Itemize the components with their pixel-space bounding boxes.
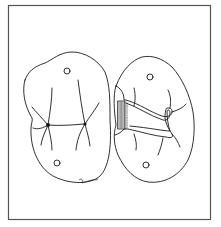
groove-line bbox=[85, 124, 90, 146]
illustration-canvas: Bradley bbox=[0, 0, 221, 227]
contact-circle-bottom bbox=[143, 162, 149, 168]
right-tooth-outline bbox=[114, 56, 194, 182]
ridge-line bbox=[172, 134, 180, 147]
groove-line bbox=[76, 124, 85, 150]
groove-line bbox=[32, 107, 48, 125]
ridge-line bbox=[168, 90, 171, 108]
groove-line bbox=[33, 125, 48, 129]
figure-frame bbox=[9, 6, 211, 220]
dental-illustration: dental line illustration bbox=[0, 0, 221, 227]
right-tooth bbox=[114, 56, 194, 182]
groove-line bbox=[78, 80, 85, 124]
artist-signature: Bradley bbox=[78, 178, 103, 186]
groove-line bbox=[48, 88, 52, 125]
hatching bbox=[119, 102, 124, 128]
contact-circle-top bbox=[147, 74, 153, 80]
left-tooth-outline bbox=[24, 52, 111, 183]
ridge-line bbox=[172, 104, 186, 112]
contact-circle-bottom bbox=[54, 160, 60, 166]
cavity-inner-outline bbox=[126, 103, 170, 131]
left-tooth bbox=[24, 52, 111, 183]
groove-line bbox=[85, 103, 99, 124]
contact-circle-top bbox=[64, 68, 70, 74]
central-groove bbox=[48, 124, 84, 125]
ridge-line bbox=[134, 134, 136, 150]
ridge-line bbox=[158, 138, 163, 155]
groove-line bbox=[48, 125, 52, 150]
ridge-line bbox=[134, 88, 135, 106]
